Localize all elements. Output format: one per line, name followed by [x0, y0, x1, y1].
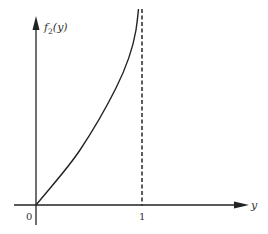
y-axis-arrow-icon — [33, 16, 40, 30]
x-axis-arrow-icon — [234, 202, 249, 209]
density-plot: f2(y) y 0 1 — [0, 0, 268, 234]
density-curve — [36, 9, 139, 205]
x-axis-label: y — [250, 199, 258, 212]
origin-label: 0 — [26, 211, 32, 222]
asymptote-tick-label: 1 — [139, 211, 145, 222]
y-axis-label: f2(y) — [43, 21, 68, 36]
